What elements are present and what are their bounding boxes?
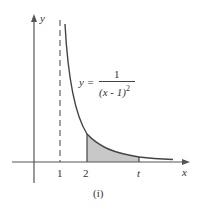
fraction-bar [99, 81, 135, 82]
shaded-area [87, 134, 139, 162]
diagram-canvas [0, 0, 200, 213]
tick-label-2: 2 [83, 168, 89, 179]
exponent: 2 [126, 84, 130, 93]
function-denominator: (x - 1)2 [99, 85, 130, 98]
x-axis-label: x [182, 167, 187, 178]
function-lhs: y = [79, 77, 94, 88]
function-numerator: 1 [114, 69, 120, 80]
y-axis-label: y [40, 13, 45, 24]
tick-label-t: t [137, 168, 140, 179]
x-axis-arrow-icon [182, 159, 190, 165]
denominator-text: (x - 1) [99, 86, 126, 98]
figure-caption: (i) [93, 188, 103, 199]
y-axis-arrow-icon [31, 14, 37, 22]
tick-label-1: 1 [57, 168, 63, 179]
